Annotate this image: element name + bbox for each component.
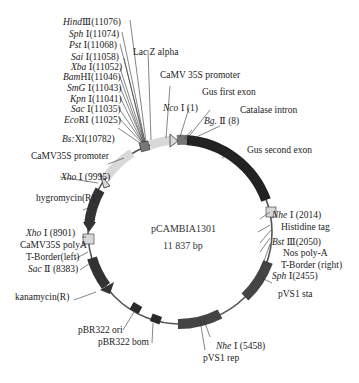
label-gus-first-exon: Gus first exon — [202, 87, 256, 97]
label-camv35s-polya: CaMV35S polyA — [20, 240, 87, 250]
label-hygromycin: hygromycin(R) — [36, 193, 95, 204]
label-camv35s-promoter-top: CaMV 35S promoter — [160, 70, 241, 80]
plasmid-name: pCAMBIA1301 — [151, 223, 216, 234]
site-nhei-5458: Nhe Ⅰ (5458) — [215, 341, 265, 352]
label-catalase-intron: Catalase intron — [240, 105, 297, 115]
site-xhoi-9995: Xho Ⅰ (9995) — [60, 172, 110, 183]
label-kanamycin: kanamycin(R) — [15, 292, 69, 303]
label-pvs1-rep: pVS1 rep — [203, 353, 239, 363]
site-sacii: Sac Ⅱ (8383) — [28, 264, 78, 275]
label-pbr322-bom: pBR322 bom — [98, 337, 150, 347]
pbr322-ori-feature — [130, 302, 143, 314]
label-tborder-left: T-Border(left) — [26, 252, 79, 263]
label-nos-polya: Nos poly-A — [283, 248, 328, 258]
pbr322-bom-feature — [150, 314, 162, 325]
mcs-box — [139, 141, 150, 152]
site-hindiii: HindⅢ(11076) — [62, 17, 121, 28]
site-xhoi-8901: Xho Ⅰ (8901) — [25, 228, 75, 239]
label-histidine-tag: Histidine tag — [281, 222, 330, 232]
hygromycin-arrowhead — [83, 222, 96, 232]
site-psti: Pst Ⅰ(11068) — [68, 40, 117, 51]
site-saci: Sac Ⅰ(11035) — [71, 104, 121, 115]
label-tborder-right: T-Border (right) — [281, 260, 342, 271]
pvs1-rep-feature — [178, 314, 220, 324]
site-sphi-2455: Sph Ⅰ(2455) — [272, 271, 318, 282]
site-smai: SmG Ⅰ(11043) — [67, 83, 121, 94]
label-pvs1-sta: pVS1 sta — [278, 289, 313, 299]
gus-first-exon-feature — [150, 140, 172, 145]
site-bglii: Bg. Ⅱ (8) — [204, 116, 239, 127]
site-bstxi: Bs:XI(10782) — [62, 134, 115, 145]
plasmid-size: 11 837 bp — [163, 240, 203, 251]
label-camv35s-promoter-left: CaMV35S promoter — [31, 151, 110, 161]
label-lacz-alpha: Lac Z alpha — [133, 47, 179, 57]
site-bstiii: Bst Ⅲ(2050) — [272, 237, 321, 248]
label-gus-second-exon: Gus second exon — [247, 145, 312, 155]
kanamycin-feature — [92, 258, 106, 286]
site-ecori: EcoRⅠ (11025) — [63, 115, 121, 126]
label-pbr322-ori: pBR322 ori — [78, 325, 123, 335]
site-ncoi: Nco Ⅰ (1) — [162, 103, 198, 114]
site-sphi: Sph Ⅰ(11074) — [69, 29, 119, 40]
site-nhei-2014: Nhe Ⅰ (2014) — [271, 210, 321, 221]
plasmid-map: HindⅢ(11076) Sph Ⅰ(11074) Pst Ⅰ(11068) S… — [0, 0, 359, 383]
site-bamhi: BamHⅠ(11046) — [63, 72, 121, 83]
